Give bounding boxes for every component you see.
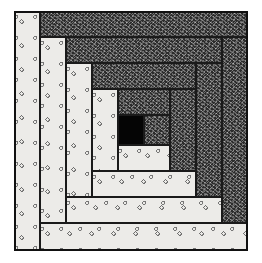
ring-1-left-strip: [92, 89, 118, 171]
center-square: [118, 115, 144, 145]
ring-1-bottom-strip: [118, 145, 170, 171]
ring-3-bottom-strip: [66, 197, 222, 223]
ring-2-right-strip: [170, 89, 196, 171]
ring-3-right-strip: [196, 63, 222, 197]
ring-3-top-strip: [66, 37, 222, 63]
ring-1-right-strip: [144, 115, 170, 145]
ring-2-bottom-strip: [92, 171, 196, 197]
ring-2-top-strip: [92, 63, 196, 89]
ring-2-left-strip: [66, 63, 92, 197]
ring-4-top-strip: [40, 11, 248, 37]
log-cabin-quilt-block: [0, 0, 262, 263]
ring-1-top-strip: [118, 89, 170, 115]
ring-4-right-strip: [222, 37, 248, 223]
ring-3-left-strip: [40, 37, 66, 223]
ring-4-bottom-strip: [40, 223, 248, 251]
ring-4-left-strip: [14, 11, 40, 251]
